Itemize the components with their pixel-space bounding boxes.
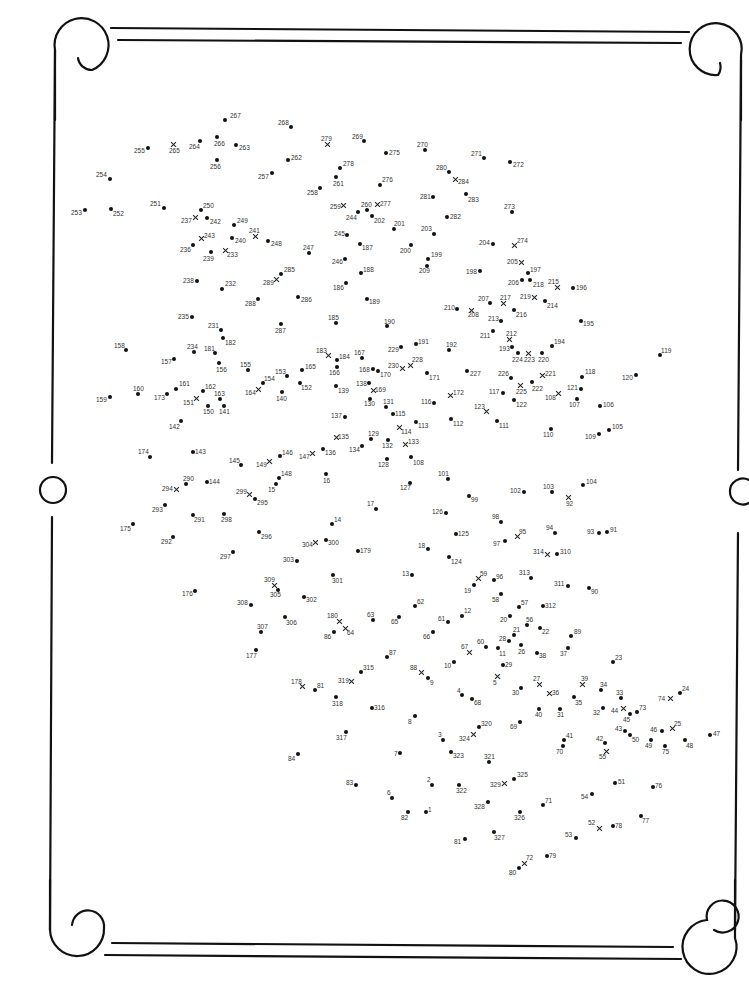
dot-number-label: 110 bbox=[543, 431, 553, 438]
dot-number-label: 88 bbox=[410, 664, 417, 671]
dot-number-label: 58 bbox=[492, 596, 499, 603]
dot-number-label: 25 bbox=[674, 720, 681, 727]
cross-marker-icon bbox=[596, 825, 602, 831]
dot-number-label: 126 bbox=[432, 508, 443, 515]
dot-number-label: 309 bbox=[264, 576, 275, 583]
dot-number-label: 249 bbox=[237, 217, 248, 224]
dot-number-label: 82 bbox=[401, 814, 408, 821]
dot-number-label: 99 bbox=[471, 496, 478, 503]
dot-number-label: 189 bbox=[369, 298, 380, 305]
dot-number-label: 107 bbox=[569, 401, 580, 408]
dot-number-label: 256 bbox=[210, 163, 221, 170]
dot-number-label: 64 bbox=[347, 629, 354, 636]
dot-number-label: 300 bbox=[328, 539, 339, 546]
dot-number-label: 31 bbox=[557, 711, 564, 718]
dot-number-label: 318 bbox=[332, 700, 343, 707]
dot-number-label: 50 bbox=[632, 736, 639, 743]
dot-marker-icon bbox=[184, 482, 188, 486]
dot-marker-icon bbox=[108, 395, 112, 399]
dot-marker-icon bbox=[478, 269, 482, 273]
dot-marker-icon bbox=[708, 733, 712, 737]
dot-number-label: 77 bbox=[642, 817, 649, 824]
dot-number-label: 291 bbox=[194, 516, 205, 523]
cross-marker-icon bbox=[544, 551, 550, 557]
dot-number-label: 22 bbox=[542, 628, 549, 635]
dot-marker-icon bbox=[338, 166, 342, 170]
dot-number-label: 134 bbox=[349, 446, 360, 453]
dot-number-label: 288 bbox=[245, 300, 256, 307]
dot-number-label: 222 bbox=[532, 385, 543, 392]
dot-number-label: 242 bbox=[210, 218, 221, 225]
dot-marker-icon bbox=[518, 720, 522, 724]
dot-number-label: 292 bbox=[161, 538, 172, 545]
dot-number-label: 148 bbox=[281, 470, 292, 477]
dot-number-label: 166 bbox=[329, 369, 340, 376]
dot-number-label: 265 bbox=[169, 147, 180, 154]
dot-number-label: 127 bbox=[400, 484, 411, 491]
dot-marker-icon bbox=[270, 171, 274, 175]
dot-marker-icon bbox=[580, 375, 584, 379]
dot-number-label: 170 bbox=[380, 371, 391, 378]
dot-number-label: 42 bbox=[596, 735, 603, 742]
dot-number-label: 246 bbox=[332, 258, 343, 265]
dot-marker-icon bbox=[509, 376, 513, 380]
dot-number-label: 117 bbox=[489, 388, 499, 395]
dot-number-label: 240 bbox=[235, 237, 246, 244]
dot-marker-icon bbox=[607, 428, 611, 432]
dot-number-label: 164 bbox=[245, 389, 256, 396]
dot-number-label: 193 bbox=[499, 345, 510, 352]
dot-marker-icon bbox=[603, 741, 607, 745]
dot-number-label: 293 bbox=[152, 506, 163, 513]
dot-number-label: 81 bbox=[317, 682, 324, 689]
dot-number-label: 103 bbox=[543, 483, 554, 490]
dot-marker-icon bbox=[460, 614, 464, 618]
dot-marker-icon bbox=[384, 405, 388, 409]
dot-number-label: 205 bbox=[507, 258, 518, 265]
dot-number-label: 220 bbox=[538, 356, 549, 363]
dot-marker-icon bbox=[613, 781, 617, 785]
dot-number-label: 213 bbox=[488, 315, 499, 322]
dot-number-label: 247 bbox=[303, 244, 314, 251]
dot-marker-icon bbox=[220, 287, 224, 291]
dot-number-label: 273 bbox=[504, 203, 515, 210]
dot-number-label: 91 bbox=[610, 526, 617, 533]
dot-number-label: 305 bbox=[270, 591, 281, 598]
dot-marker-icon bbox=[343, 257, 347, 261]
dot-number-label: 156 bbox=[216, 366, 227, 373]
dot-number-label: 260 bbox=[361, 201, 372, 208]
dot-number-label: 12 bbox=[464, 607, 471, 614]
dot-marker-icon bbox=[597, 531, 601, 535]
cross-marker-icon bbox=[531, 294, 537, 300]
dot-marker-icon bbox=[590, 792, 594, 796]
dot-number-label: 286 bbox=[301, 296, 312, 303]
dot-marker-icon bbox=[230, 236, 234, 240]
dot-marker-icon bbox=[307, 251, 311, 255]
dot-marker-icon bbox=[540, 351, 544, 355]
dot-marker-icon bbox=[491, 329, 495, 333]
dot-marker-icon bbox=[343, 415, 347, 419]
dot-marker-icon bbox=[599, 688, 603, 692]
dot-marker-icon bbox=[579, 387, 583, 391]
dot-number-label: 93 bbox=[587, 528, 594, 535]
dot-marker-icon bbox=[163, 503, 167, 507]
dot-marker-icon bbox=[218, 397, 222, 401]
cross-marker-icon bbox=[518, 259, 524, 265]
dot-number-label: 319 bbox=[338, 677, 349, 684]
dot-number-label: 327 bbox=[494, 834, 505, 841]
dot-number-label: 40 bbox=[535, 711, 542, 718]
dot-number-label: 20 bbox=[500, 616, 507, 623]
dot-number-label: 38 bbox=[539, 652, 546, 659]
dot-number-label: 206 bbox=[508, 279, 519, 286]
dot-number-label: 86 bbox=[324, 633, 331, 640]
dot-number-label: 15 bbox=[268, 486, 275, 493]
dot-number-label: 317 bbox=[336, 734, 347, 741]
dot-marker-icon bbox=[165, 392, 169, 396]
dot-number-label: 197 bbox=[530, 266, 541, 273]
dot-marker-icon bbox=[601, 706, 605, 710]
dot-number-label: 255 bbox=[134, 147, 145, 154]
dot-number-label: 36 bbox=[552, 689, 559, 696]
dot-number-label: 14 bbox=[334, 516, 341, 523]
dot-number-label: 108 bbox=[545, 394, 556, 401]
dot-marker-icon bbox=[324, 472, 328, 476]
dot-number-label: 180 bbox=[327, 612, 338, 619]
